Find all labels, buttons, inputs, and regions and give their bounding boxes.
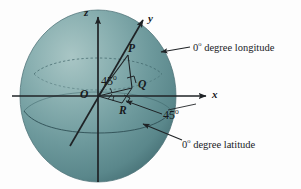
angle-azimuth-value: 45 <box>163 108 175 122</box>
point-label-P: P <box>128 43 135 55</box>
point-label-R: R <box>119 105 127 117</box>
point-label-O: O <box>80 89 88 101</box>
axis-label-y: y <box>148 13 153 24</box>
degree-symbol-icon: o <box>113 73 117 82</box>
angle-label-azimuth: 45o <box>163 108 179 121</box>
angle-label-elevation: 45o <box>101 74 117 87</box>
spherical-coordinates-figure: z y x O P Q R 45o 45o 0o degree longitud… <box>0 0 301 189</box>
angle-elevation-value: 45 <box>101 74 113 88</box>
point-label-Q: Q <box>138 79 146 91</box>
axis-label-x: x <box>212 89 218 100</box>
callout-longitude-text: degree longitude <box>202 42 275 53</box>
axis-label-z: z <box>84 7 88 18</box>
figure-canvas <box>0 0 301 189</box>
leader-line-longitude <box>161 47 190 52</box>
callout-latitude: 0o degree latitude <box>182 138 255 150</box>
callout-latitude-text: degree latitude <box>191 139 256 150</box>
callout-longitude: 0o degree longitude <box>193 41 274 53</box>
degree-symbol-icon: o <box>175 107 179 116</box>
